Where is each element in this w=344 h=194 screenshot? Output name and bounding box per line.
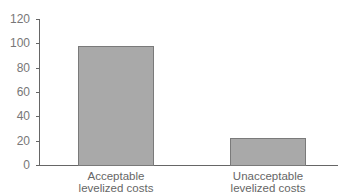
y-tick (36, 92, 40, 93)
category-label-line: Acceptable (56, 170, 176, 182)
y-tick-label: 40 (17, 110, 30, 122)
y-tick (36, 68, 40, 69)
y-tick-label: 20 (17, 135, 30, 147)
y-tick (36, 19, 40, 20)
bar (230, 138, 306, 166)
y-tick (36, 141, 40, 142)
category-label-line: levelized costs (56, 182, 176, 194)
y-tick-label: 80 (17, 62, 30, 74)
y-tick (36, 165, 40, 166)
bar (78, 46, 154, 166)
y-tick (36, 116, 40, 117)
y-tick (36, 43, 40, 44)
category-label-line: Unacceptable (208, 170, 328, 182)
y-tick-label: 100 (10, 37, 30, 49)
y-tick-label: 60 (17, 86, 30, 98)
category-label-line: levelized costs (208, 182, 328, 194)
bar-chart: 020406080100120 Acceptablelevelized cost… (0, 0, 344, 194)
y-tick-label: 120 (10, 13, 30, 25)
category-label: Acceptablelevelized costs (56, 170, 176, 194)
category-label: Unacceptablelevelized costs (208, 170, 328, 194)
y-tick-label: 0 (23, 159, 30, 171)
